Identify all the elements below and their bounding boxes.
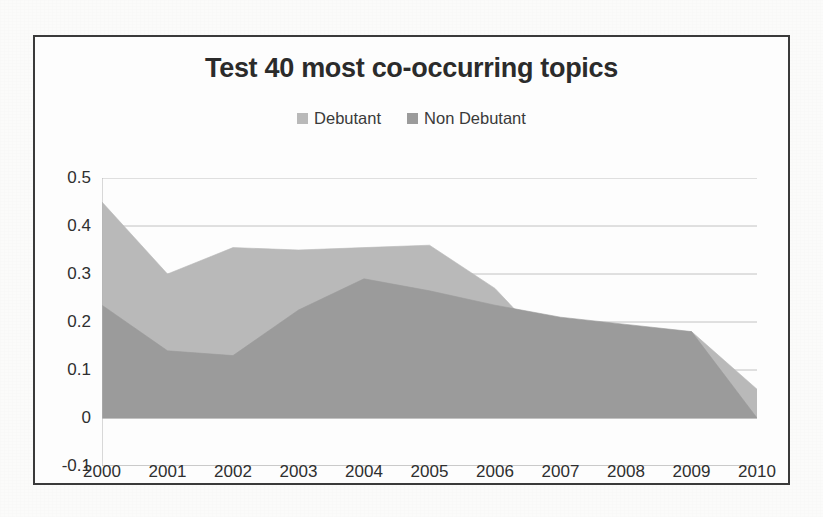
y-axis-tick-labels: 0.50.40.30.20.10-0.1	[35, 178, 97, 466]
chart-figure: Test 40 most co-occurring topics Debutan…	[33, 35, 790, 485]
x-tick-label: 2004	[345, 462, 383, 482]
x-tick-label: 2000	[83, 462, 121, 482]
y-tick-label: 0.3	[67, 264, 91, 284]
x-tick-label: 2009	[673, 462, 711, 482]
legend-swatch-debutant	[297, 113, 308, 124]
x-tick-label: 2006	[476, 462, 514, 482]
y-tick-label: 0	[82, 408, 91, 428]
x-axis-tick-labels: 2000200120022003200420052006200720082009…	[102, 462, 757, 490]
legend-swatch-non-debutant	[407, 113, 418, 124]
x-tick-label: 2003	[280, 462, 318, 482]
x-tick-label: 2001	[149, 462, 187, 482]
legend-entry-non-debutant[interactable]: Non Debutant	[407, 109, 526, 128]
y-tick-label: 0.2	[67, 312, 91, 332]
y-tick-label: 0.1	[67, 360, 91, 380]
y-tick-label: 0.4	[67, 216, 91, 236]
chart-title: Test 40 most co-occurring topics	[35, 53, 788, 84]
x-tick-label: 2005	[411, 462, 449, 482]
plot-area	[102, 178, 757, 466]
legend-entry-debutant[interactable]: Debutant	[297, 109, 381, 128]
x-tick-label: 2008	[607, 462, 645, 482]
y-tick-label: 0.5	[67, 168, 91, 188]
area-chart-svg	[102, 178, 757, 466]
legend-label-non-debutant: Non Debutant	[424, 109, 526, 128]
x-tick-label: 2002	[214, 462, 252, 482]
legend-label-debutant: Debutant	[314, 109, 381, 128]
x-tick-label: 2010	[738, 462, 776, 482]
x-tick-label: 2007	[542, 462, 580, 482]
chart-legend: Debutant Non Debutant	[35, 109, 788, 128]
